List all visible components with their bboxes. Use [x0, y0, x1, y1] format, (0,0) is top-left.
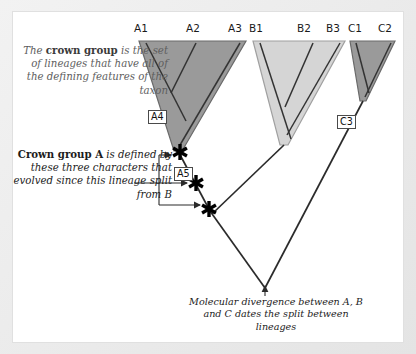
tip-label-b1: B1	[245, 22, 267, 34]
callout-crown-group-bold: crown group	[46, 44, 118, 56]
callout-crown-group-lead: The	[23, 45, 46, 56]
callout-crown-group: The crown group is the set of lineages t…	[18, 44, 168, 97]
callout-crown-group-a: Crown group A is defined by these three …	[12, 148, 172, 201]
tip-label-b3: B3	[322, 22, 344, 34]
tip-label-b2: B2	[293, 22, 315, 34]
tip-label-c2: C2	[374, 22, 396, 34]
clade-c-group	[350, 41, 395, 101]
clade-b-triangle	[253, 41, 345, 145]
node-label-a5: A5	[174, 167, 193, 181]
tip-label-a1: A1	[130, 22, 152, 34]
callout-crown-group-a-bold: Crown group A	[18, 148, 103, 160]
figure-root: A1 A2 A3 B1 B2 B3 C1 C2 A4 A5 C3 The cro…	[0, 0, 416, 354]
tip-label-a3: A3	[224, 22, 246, 34]
tip-label-c1: C1	[344, 22, 366, 34]
node-label-a4: A4	[148, 110, 167, 124]
character-marker-3	[201, 201, 217, 217]
clade-b-group	[253, 41, 345, 145]
branch-stem-b	[212, 145, 284, 214]
node-label-c3: C3	[337, 115, 356, 129]
leader-arrowhead-3	[194, 202, 201, 209]
branch-ab-to-root	[210, 211, 265, 288]
molecular-divergence-pointer	[262, 285, 269, 296]
tip-label-a2: A2	[182, 22, 204, 34]
callout-molecular-divergence: Molecular divergence between A, B and C …	[186, 296, 366, 333]
